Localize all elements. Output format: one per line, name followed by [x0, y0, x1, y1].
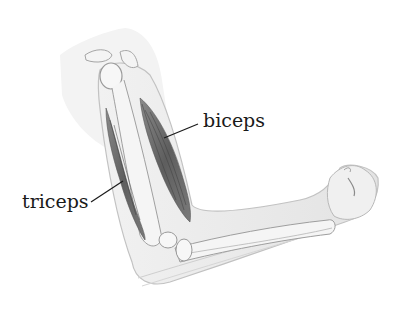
biceps-label: biceps — [203, 111, 265, 130]
hand — [327, 166, 376, 220]
arm-muscle-diagram: biceps triceps — [0, 0, 409, 312]
arm-illustration — [0, 0, 409, 312]
triceps-label: triceps — [22, 192, 89, 211]
